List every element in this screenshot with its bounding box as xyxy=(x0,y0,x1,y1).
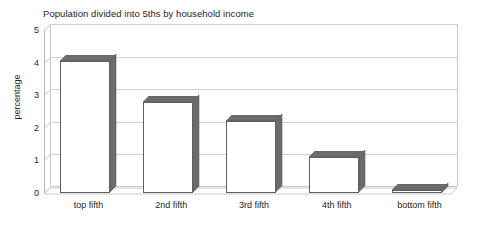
y-axis-tick-label: 2 xyxy=(34,123,39,132)
plot-area: 012345 xyxy=(44,24,458,199)
y-axis-tick-label: 4 xyxy=(34,58,39,67)
bar-front-face xyxy=(60,61,110,193)
bar-front-face xyxy=(226,121,276,193)
x-axis-tick-label: 2nd fifth xyxy=(155,200,187,210)
chart-title: Population divided into 5ths by househol… xyxy=(43,8,254,20)
bar-top-face xyxy=(226,115,283,122)
y-axis-title: percentage xyxy=(12,52,22,142)
bar xyxy=(392,24,442,193)
y-axis-tick-label: 5 xyxy=(34,26,39,35)
bar-side-face xyxy=(110,54,117,193)
x-axis-tick-label: 3rd fifth xyxy=(239,200,269,210)
bar-top-face xyxy=(309,151,366,158)
bar xyxy=(60,24,110,193)
y-axis-tick-label: 0 xyxy=(34,189,39,198)
bar-top-face xyxy=(392,184,449,191)
bar xyxy=(226,24,276,193)
x-axis-tick-label: bottom fifth xyxy=(397,200,442,210)
bar-front-face xyxy=(309,157,359,193)
x-axis-tick-label: 4th fifth xyxy=(322,200,352,210)
y-axis-line xyxy=(44,30,45,194)
bar xyxy=(309,24,359,193)
bar xyxy=(143,24,193,193)
bar-front-face xyxy=(143,102,193,193)
bar-side-face xyxy=(193,95,200,193)
x-axis-tick-label: top fifth xyxy=(74,200,104,210)
bar-top-face xyxy=(60,55,117,62)
bar-top-face xyxy=(143,96,200,103)
bar-side-face xyxy=(276,114,283,193)
y-axis-tick-label: 3 xyxy=(34,91,39,100)
bar-chart: Population divided into 5ths by househol… xyxy=(0,0,477,228)
y-axis-tick-label: 1 xyxy=(34,156,39,165)
